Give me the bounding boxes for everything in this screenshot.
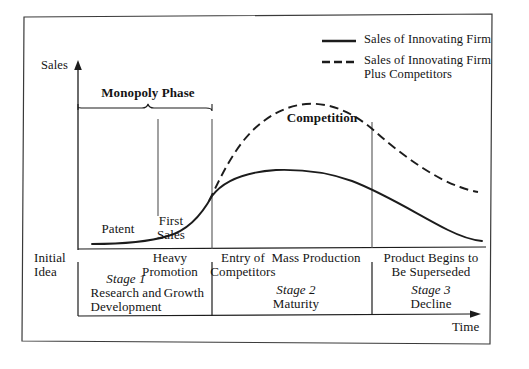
heavy-promotion-label-line2: Promotion	[142, 265, 198, 279]
entry-of-competitors-label-line1: Entry of	[221, 251, 265, 265]
stage-2-desc-line1: Maturity	[273, 297, 319, 311]
stage-1-desc-line2: Development	[90, 300, 161, 314]
product-superseded-label-line2: Be Superseded	[392, 265, 471, 279]
initial-idea-label-line1: Initial	[34, 251, 66, 265]
stage-2-name: Stage 2	[276, 283, 315, 297]
stage-1-name: Stage 1	[106, 272, 145, 286]
product-life-cycle-figure: Sales of Innovating Firm Sales of Innova…	[0, 0, 529, 369]
legend-item-label-2-line1: Sales of Innovating Firm	[364, 54, 491, 68]
monopoly-phase-label: Monopoly Phase	[101, 86, 195, 100]
mass-production-label: Mass Production	[271, 251, 360, 265]
y-axis-label: Sales	[41, 59, 68, 73]
first-sales-label-line1: First	[159, 214, 183, 228]
legend-item-label-2-line2: Plus Competitors	[364, 68, 452, 82]
initial-idea-label-line2: Idea	[34, 265, 57, 279]
growth-label: Growth	[164, 286, 204, 300]
heavy-promotion-label-line1: Heavy	[153, 251, 187, 265]
stage-3-desc-line1: Decline	[410, 297, 451, 311]
entry-of-competitors-label-line2: Competitors	[210, 265, 275, 279]
competition-label: Competition	[287, 111, 357, 125]
stage-1-desc-line1: Research and	[91, 286, 162, 300]
patent-label: Patent	[101, 222, 134, 236]
first-sales-label-line2: Sales	[157, 228, 185, 242]
legend-item-label-1: Sales of Innovating Firm	[364, 33, 491, 47]
stage-3-name: Stage 3	[411, 283, 450, 297]
product-superseded-label-line1: Product Begins to	[384, 251, 479, 265]
x-axis-label: Time	[452, 320, 479, 334]
